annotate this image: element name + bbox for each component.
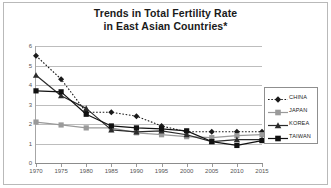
- y-axis-tick-label: 6: [16, 43, 32, 49]
- legend-label: JAPAN: [289, 107, 307, 113]
- data-point-marker: [83, 105, 89, 111]
- y-axis-tick-label: 3: [16, 102, 32, 108]
- chart-screenshot: Trends in Total Fertility Rate in East A…: [0, 0, 331, 188]
- x-axis-tick-mark: [187, 164, 188, 167]
- data-point-marker: [134, 125, 139, 130]
- legend-key-icon: [267, 104, 289, 115]
- data-point-marker: [33, 72, 39, 78]
- x-axis-tick-mark: [86, 164, 87, 167]
- chart-title: Trends in Total Fertility Rate in East A…: [0, 7, 331, 33]
- series-line: [36, 56, 262, 132]
- data-point-marker: [33, 88, 38, 93]
- x-axis-tick-mark: [111, 164, 112, 167]
- y-axis-tick-label: 2: [16, 121, 32, 127]
- series-line: [36, 75, 262, 141]
- chart-title-line-2: in East Asian Countries*: [0, 20, 331, 33]
- series-taiwan: [33, 88, 264, 148]
- x-axis-tick-label: 2015: [247, 168, 277, 175]
- data-point-marker: [59, 122, 64, 127]
- y-axis-tick-label: 1: [16, 141, 32, 147]
- series-line: [36, 91, 262, 146]
- x-axis-tick-mark: [162, 164, 163, 167]
- legend-item-taiwan[interactable]: TAIWAN: [265, 129, 317, 142]
- legend-key-icon: [267, 91, 289, 102]
- data-point-marker: [133, 113, 139, 119]
- x-axis-tick-mark: [212, 164, 213, 167]
- data-point-marker: [209, 129, 215, 135]
- gridline: [36, 163, 262, 164]
- x-axis-tick-mark: [61, 164, 62, 167]
- legend-label: TAIWAN: [289, 133, 311, 139]
- data-point-marker: [184, 128, 189, 133]
- y-axis-tick-label: 0: [16, 160, 32, 166]
- data-point-marker: [275, 136, 281, 142]
- x-axis-tick-mark: [262, 164, 263, 167]
- series-china: [33, 53, 265, 135]
- data-point-marker: [33, 53, 39, 59]
- data-point-marker: [33, 119, 38, 124]
- legend-key-icon: [267, 117, 289, 128]
- series-layer: [36, 46, 262, 163]
- data-point-marker: [275, 96, 281, 102]
- legend-item-japan[interactable]: JAPAN: [265, 103, 317, 116]
- series-line: [36, 122, 262, 138]
- legend-key-icon: [267, 130, 289, 141]
- legend: CHINAJAPANKOREATAIWAN: [264, 87, 318, 144]
- x-axis-tick-mark: [136, 164, 137, 167]
- legend-item-china[interactable]: CHINA: [265, 90, 317, 103]
- data-point-marker: [109, 123, 114, 128]
- x-axis-tick-mark: [237, 164, 238, 167]
- chart-title-line-1: Trends in Total Fertility Rate: [94, 7, 237, 19]
- legend-label: KOREA: [289, 120, 309, 126]
- legend-item-korea[interactable]: KOREA: [265, 116, 317, 129]
- data-point-marker: [84, 112, 89, 117]
- x-axis-tick-mark: [36, 164, 37, 167]
- data-point-marker: [108, 109, 114, 115]
- data-point-marker: [209, 139, 214, 144]
- data-point-marker: [84, 125, 89, 130]
- data-point-marker: [275, 110, 281, 116]
- y-axis-tick-label: 4: [16, 82, 32, 88]
- y-axis-tick-label: 5: [16, 63, 32, 69]
- legend-label: CHINA: [289, 94, 307, 100]
- data-point-marker: [234, 143, 239, 148]
- data-point-marker: [59, 89, 64, 94]
- data-point-marker: [159, 126, 164, 131]
- plot-area: [36, 46, 262, 163]
- series-japan: [33, 119, 264, 140]
